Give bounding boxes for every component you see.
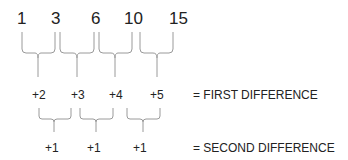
second-difference-value: +1: [45, 142, 59, 154]
brace-icon: [39, 108, 71, 132]
first-difference-value: +2: [32, 89, 46, 101]
second-difference-value: +1: [87, 142, 101, 154]
brace-icon: [22, 32, 55, 77]
brace-icon: [99, 32, 132, 77]
second-difference-value: +1: [133, 142, 147, 154]
brace-icon: [127, 108, 160, 132]
brace-connectors: [0, 0, 348, 160]
first-difference-label: = FIRST DIFFERENCE: [193, 89, 318, 101]
brace-icon: [140, 32, 173, 77]
brace-icon: [80, 108, 113, 132]
brace-icon: [60, 32, 94, 77]
first-difference-value: +4: [109, 89, 123, 101]
second-difference-label: = SECOND DIFFERENCE: [193, 142, 335, 154]
first-difference-value: +5: [150, 89, 164, 101]
first-difference-value: +3: [71, 89, 85, 101]
